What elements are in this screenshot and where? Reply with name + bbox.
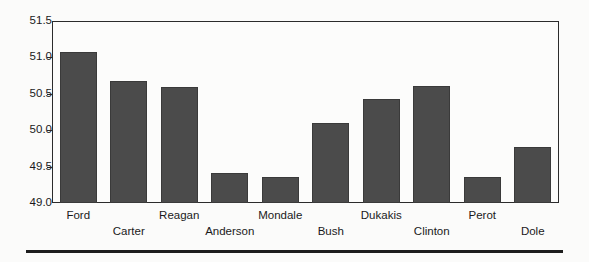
x-axis-label-dole: Dole xyxy=(521,226,545,238)
x-axis-label-mondale: Mondale xyxy=(258,210,302,222)
bar-mondale xyxy=(262,177,299,203)
x-axis-label-carter: Carter xyxy=(113,226,145,238)
bar-dole xyxy=(514,147,551,203)
bar-clinton xyxy=(413,86,450,203)
y-axis-tick-label: 51.5 xyxy=(8,15,52,27)
bar-perot xyxy=(464,177,501,203)
y-axis-tick-label: 51.0 xyxy=(8,52,52,64)
bottom-horizontal-rule xyxy=(26,250,563,253)
bar-dukakis xyxy=(363,99,400,203)
x-axis-label-reagan: Reagan xyxy=(159,210,199,222)
bar-anderson xyxy=(211,173,248,203)
x-axis-label-dukakis: Dukakis xyxy=(361,210,402,222)
bar-ford xyxy=(60,52,97,203)
bar-chart-figure: 49.049.550.050.551.051.5 FordCarterReaga… xyxy=(0,0,589,262)
x-axis-label-bush: Bush xyxy=(318,226,344,238)
x-axis-label-anderson: Anderson xyxy=(205,226,254,238)
y-axis-tick-label: 50.0 xyxy=(8,124,52,136)
bar-reagan xyxy=(161,87,198,203)
bar-carter xyxy=(110,81,147,203)
y-axis-tick-label: 50.5 xyxy=(8,88,52,100)
x-axis-label-ford: Ford xyxy=(66,210,90,222)
x-axis-label-perot: Perot xyxy=(469,210,497,222)
bar-bush xyxy=(312,123,349,203)
bars-group xyxy=(53,22,558,203)
y-axis-tick-label: 49.5 xyxy=(8,161,52,173)
x-axis-label-clinton: Clinton xyxy=(414,226,450,238)
y-axis-tick-label: 49.0 xyxy=(8,197,52,209)
